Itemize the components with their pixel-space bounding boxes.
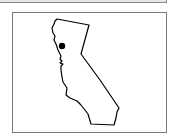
location-marker-dot bbox=[59, 43, 65, 49]
california-outline bbox=[52, 19, 119, 125]
california-map bbox=[0, 0, 179, 138]
